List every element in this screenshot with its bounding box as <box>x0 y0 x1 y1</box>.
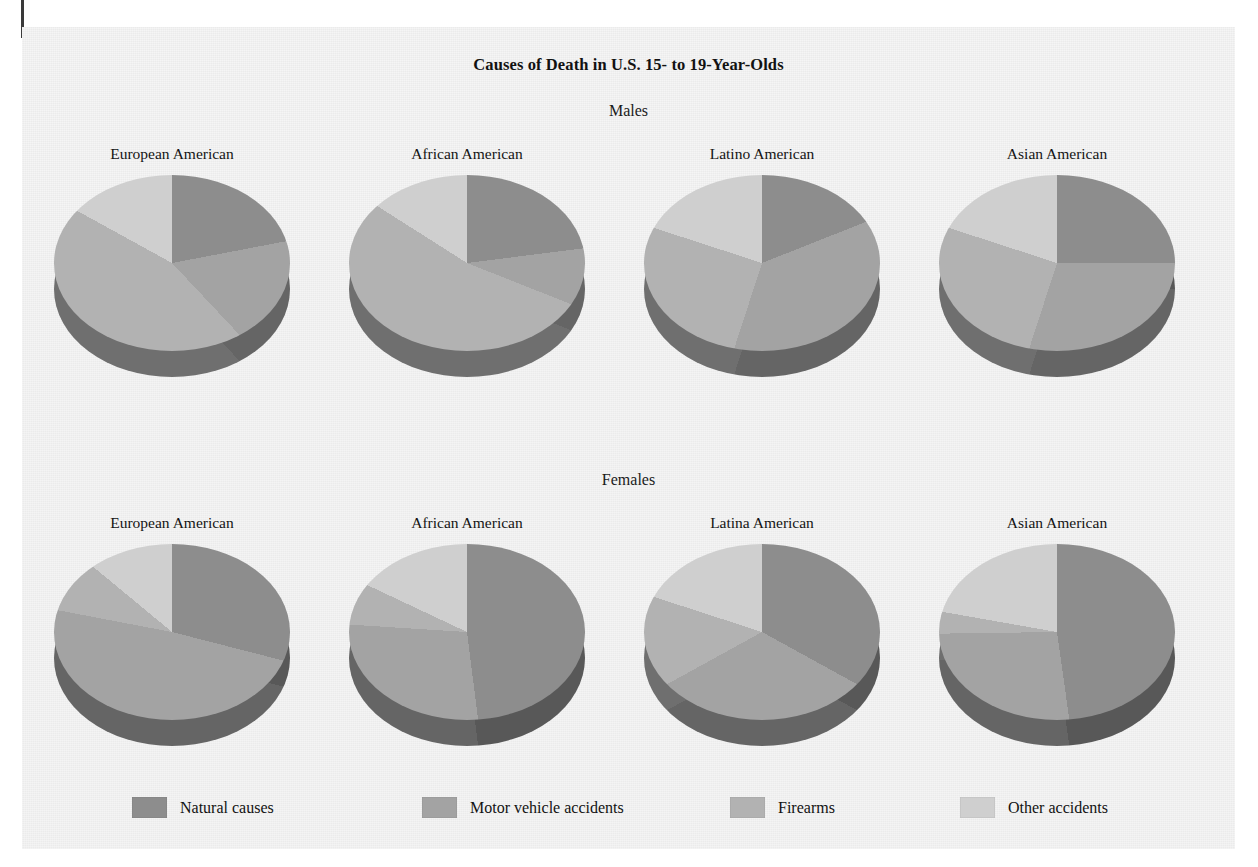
pie-chart <box>22 544 322 759</box>
pie-top-face <box>54 175 290 351</box>
legend-item-natural-causes: Natural causes <box>132 797 274 818</box>
legend-label-natural-causes: Natural causes <box>180 799 274 817</box>
pie-top-face <box>54 544 290 720</box>
section-label-females: Females <box>22 471 1235 489</box>
pie-top-face <box>349 544 585 720</box>
legend-item-firearms: Firearms <box>730 797 835 818</box>
legend-swatch-other-accidents <box>960 797 995 818</box>
pie-chart <box>317 544 617 759</box>
pie-panel-label: Latino American <box>612 145 912 163</box>
pie-panel-label: European American <box>22 514 322 532</box>
pie-chart <box>317 175 617 390</box>
legend-swatch-motor-vehicle-accidents <box>422 797 457 818</box>
legend-item-other-accidents: Other accidents <box>960 797 1108 818</box>
pie-panel-label: Asian American <box>907 145 1207 163</box>
pie-top-face <box>939 175 1175 351</box>
legend-label-firearms: Firearms <box>778 799 835 817</box>
pie-chart <box>612 175 912 390</box>
pie-top-face <box>644 175 880 351</box>
legend-swatch-natural-causes <box>132 797 167 818</box>
pie-panel-label: African American <box>317 145 617 163</box>
pie-top-face <box>939 544 1175 720</box>
pie-chart <box>907 544 1207 759</box>
legend-swatch-firearms <box>730 797 765 818</box>
figure-title: Causes of Death in U.S. 15- to 19-Year-O… <box>22 55 1235 75</box>
pie-chart <box>612 544 912 759</box>
pie-panel-label: African American <box>317 514 617 532</box>
section-label-males: Males <box>22 102 1235 120</box>
legend-item-motor-vehicle-accidents: Motor vehicle accidents <box>422 797 624 818</box>
pie-top-face <box>644 544 880 720</box>
pie-chart <box>22 175 322 390</box>
pie-panel-label: Latina American <box>612 514 912 532</box>
legend: Natural causes Motor vehicle accidents F… <box>22 797 1235 837</box>
pie-chart <box>907 175 1207 390</box>
figure-panel: Causes of Death in U.S. 15- to 19-Year-O… <box>22 27 1235 849</box>
legend-label-other-accidents: Other accidents <box>1008 799 1108 817</box>
pie-panel-label: European American <box>22 145 322 163</box>
pie-top-face <box>349 175 585 351</box>
page-top-margin <box>0 0 1258 27</box>
pie-panel-label: Asian American <box>907 514 1207 532</box>
page-canvas: Causes of Death in U.S. 15- to 19-Year-O… <box>0 0 1258 867</box>
legend-label-motor-vehicle-accidents: Motor vehicle accidents <box>470 799 624 817</box>
